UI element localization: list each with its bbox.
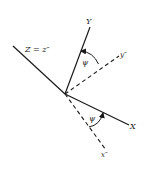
rotation-diagram: Z = z″ Y y″ ψ ψ X x″ [0,0,145,176]
x-double-prime-label: x″ [101,151,108,159]
z-axis-label: Z = z″ [24,45,50,54]
y-double-prime-axis-line [65,56,119,94]
x-axis-label: X [129,122,136,131]
psi-upper-label: ψ [82,58,89,67]
psi-lower-label: ψ [89,114,96,123]
y-axis-label: Y [86,17,92,26]
x-double-prime-axis-line [65,94,106,150]
y-double-prime-label: y″ [119,51,127,59]
x-axis-line [65,94,129,125]
